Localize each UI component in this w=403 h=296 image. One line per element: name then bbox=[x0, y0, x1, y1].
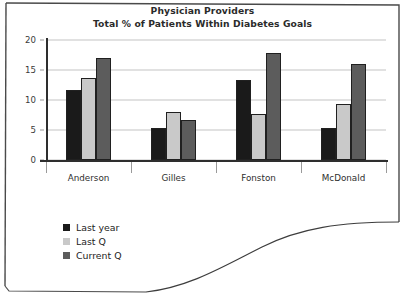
bar-group bbox=[301, 40, 386, 160]
legend-swatch-icon bbox=[63, 252, 70, 259]
x-axis-category-label: McDonald bbox=[322, 173, 366, 183]
x-axis-tick-mark bbox=[216, 162, 217, 173]
legend-item: Last year bbox=[63, 220, 122, 234]
bar bbox=[351, 64, 366, 160]
chart-title: Physician Providers Total % of Patients … bbox=[10, 4, 395, 30]
x-axis-line bbox=[40, 160, 388, 162]
bar-group bbox=[216, 40, 301, 160]
y-axis-tick-label: 5 bbox=[31, 125, 36, 135]
legend-swatch-icon bbox=[63, 238, 70, 245]
bar bbox=[251, 114, 266, 160]
x-axis-category-label: Gilles bbox=[161, 173, 185, 183]
bar bbox=[66, 90, 81, 160]
bar bbox=[181, 120, 196, 160]
bar-group bbox=[46, 40, 131, 160]
y-axis-tick-label: 20 bbox=[25, 35, 36, 45]
chart-title-line2: Total % of Patients Within Diabetes Goal… bbox=[10, 17, 395, 30]
y-axis-tick-mark bbox=[40, 70, 44, 71]
chart-title-line1: Physician Providers bbox=[10, 4, 395, 17]
legend-swatch-icon bbox=[63, 224, 70, 231]
y-axis-tick-mark bbox=[40, 100, 44, 101]
y-axis-tick-label: 0 bbox=[31, 155, 36, 165]
bar bbox=[166, 112, 181, 160]
bar bbox=[336, 104, 351, 160]
bar bbox=[81, 78, 96, 160]
bar bbox=[321, 128, 336, 160]
y-axis-line bbox=[46, 38, 48, 162]
x-axis-category-label: Fonston bbox=[241, 173, 276, 183]
bar-group bbox=[131, 40, 216, 160]
bar bbox=[266, 53, 281, 160]
plot-wrapper: 05101520 AndersonGillesFonstonMcDonald bbox=[10, 40, 395, 190]
x-axis-category-label: Anderson bbox=[68, 173, 110, 183]
legend-item: Current Q bbox=[63, 248, 122, 262]
bar bbox=[151, 128, 166, 160]
legend-label: Last year bbox=[76, 222, 119, 233]
y-axis-tick-label: 10 bbox=[25, 95, 36, 105]
y-axis-tick-label: 15 bbox=[25, 65, 36, 75]
legend-label: Current Q bbox=[76, 250, 122, 261]
x-axis-tick-mark bbox=[301, 162, 302, 173]
chart-container: Physician Providers Total % of Patients … bbox=[10, 4, 395, 216]
y-axis-tick-mark bbox=[40, 130, 44, 131]
x-axis-tick-mark bbox=[46, 162, 47, 173]
x-axis-tick-mark bbox=[131, 162, 132, 173]
legend-label: Last Q bbox=[76, 236, 106, 247]
y-axis: 05101520 bbox=[10, 40, 40, 160]
x-axis-tick-mark bbox=[386, 162, 387, 173]
plot-area bbox=[46, 40, 386, 160]
scanned-page: Physician Providers Total % of Patients … bbox=[0, 0, 403, 296]
bar bbox=[236, 80, 251, 160]
chart-legend: Last yearLast QCurrent Q bbox=[63, 220, 122, 262]
y-axis-tick-mark bbox=[40, 40, 44, 41]
legend-item: Last Q bbox=[63, 234, 122, 248]
bar bbox=[96, 58, 111, 160]
